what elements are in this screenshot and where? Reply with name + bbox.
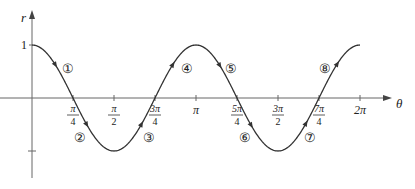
svg-text:2: 2 [112,116,117,127]
arrow-icon [138,120,145,128]
svg-text:4: 4 [317,116,322,127]
y-axis-label: r [21,10,27,25]
svg-text:3π: 3π [272,103,284,114]
x-tick-label: 3π2 [272,103,284,127]
svg-text:π: π [111,103,117,114]
svg-text:3π: 3π [149,103,161,114]
svg-text:π: π [193,103,200,117]
annotation-2: ② [74,130,86,145]
annotation-7: ⑦ [304,130,316,145]
annotation-3: ③ [143,130,155,145]
arrow-icon [302,119,309,127]
x-tick-label: π2 [108,103,120,127]
svg-text:4: 4 [153,116,158,127]
annotation-5: ⑤ [225,61,237,76]
x-tick-label: π [193,103,200,117]
x-tick-label: 2π [354,103,367,117]
svg-text:4: 4 [71,116,76,127]
arrow-icon [169,60,176,68]
axes [0,10,392,178]
svg-text:4: 4 [235,116,240,127]
annotation-1: ① [62,61,74,76]
x-axis-arrow-icon [383,95,392,101]
svg-text:5π: 5π [232,103,243,114]
y-tick-label-1: 1 [21,38,27,52]
svg-text:2: 2 [276,116,281,127]
annotation-4: ④ [181,61,193,76]
arrow-icon [216,62,223,70]
x-ticks: π4π23π4π5π43π27π42π [67,95,367,127]
svg-text:2π: 2π [354,103,367,117]
x-axis-label: θ [396,96,403,111]
annotation-6: ⑥ [239,130,251,145]
arrow-icon [248,122,255,130]
direction-arrows [52,60,341,130]
annotation-8: ⑧ [319,61,331,76]
cos2theta-plot: r θ 1 π4π23π4π5π43π27π42π ①②③④⑤⑥⑦⑧ [0,0,415,189]
arrow-icon [52,61,59,69]
arrow-icon [334,60,341,68]
y-axis-arrow-icon [29,10,35,19]
arrow-icon [83,121,90,129]
